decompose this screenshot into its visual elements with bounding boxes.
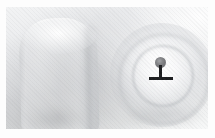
frame-border-right (208, 0, 215, 138)
pin-marker-icon[interactable] (146, 57, 178, 87)
pin-marker-bar-icon (149, 77, 173, 80)
photograph (6, 7, 208, 129)
frame-border-top (0, 0, 215, 7)
image-canvas (0, 0, 215, 138)
frame-border-bottom (0, 129, 215, 138)
